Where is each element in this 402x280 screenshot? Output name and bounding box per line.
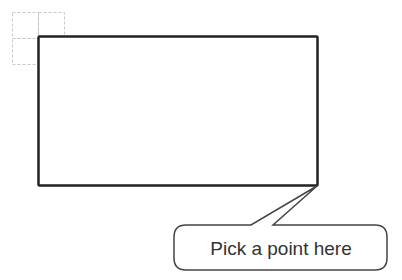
callout-text: Pick a point here [174, 228, 388, 270]
rectangle-shape[interactable] [39, 37, 318, 186]
